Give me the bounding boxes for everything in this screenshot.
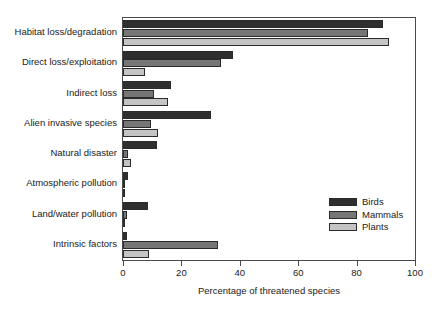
x-tick-0 <box>123 261 124 266</box>
bar-plants-5 <box>123 189 125 197</box>
legend-swatch-plants <box>329 223 357 231</box>
x-tick-label-2: 40 <box>235 267 246 278</box>
x-tick-label-0: 0 <box>120 267 125 278</box>
bar-birds-2 <box>123 81 171 89</box>
x-tick-3 <box>298 261 299 266</box>
bar-birds-3 <box>123 111 211 119</box>
bar-mammals-6 <box>123 211 127 219</box>
legend-item-birds: Birds <box>329 197 409 207</box>
bar-plants-1 <box>123 68 145 76</box>
category-label-7: Intrinsic factors <box>0 239 117 249</box>
category-label-3: Alien invasive species <box>0 118 117 128</box>
bar-mammals-0 <box>123 29 368 37</box>
bar-birds-7 <box>123 232 127 240</box>
category-label-1: Direct loss/exploitation <box>0 57 117 67</box>
legend-label-mammals: Mammals <box>362 210 403 220</box>
x-axis-title: Percentage of threatened species <box>122 285 416 296</box>
bar-birds-0 <box>123 20 383 28</box>
bar-birds-6 <box>123 202 148 210</box>
x-tick-4 <box>357 261 358 266</box>
category-label-2: Indirect loss <box>0 88 117 98</box>
bar-mammals-2 <box>123 90 154 98</box>
x-tick-label-3: 60 <box>293 267 304 278</box>
legend-label-plants: Plants <box>362 222 388 232</box>
bar-plants-3 <box>123 129 158 137</box>
bar-plants-0 <box>123 38 389 46</box>
x-tick-label-5: 100 <box>407 267 423 278</box>
chart-legend: BirdsMammalsPlants <box>329 197 409 237</box>
legend-item-plants: Plants <box>329 222 409 232</box>
bar-plants-4 <box>123 159 131 167</box>
x-axis-tick-labels: 020406080100 <box>0 267 434 281</box>
x-tick-2 <box>240 261 241 266</box>
legend-swatch-mammals <box>329 211 357 219</box>
bar-birds-1 <box>123 51 233 59</box>
bar-plants-6 <box>123 219 125 227</box>
bar-chart: Habitat loss/degradationDirect loss/expl… <box>0 0 434 313</box>
x-tick-label-4: 80 <box>351 267 362 278</box>
bar-mammals-4 <box>123 150 128 158</box>
category-axis-labels: Habitat loss/degradationDirect loss/expl… <box>0 17 117 261</box>
category-label-4: Natural disaster <box>0 148 117 158</box>
category-label-0: Habitat loss/degradation <box>0 27 117 37</box>
category-label-5: Atmospheric pollution <box>0 178 117 188</box>
bar-birds-5 <box>123 172 128 180</box>
x-tick-label-1: 20 <box>176 267 187 278</box>
bar-mammals-5 <box>123 180 125 188</box>
legend-item-mammals: Mammals <box>329 210 409 220</box>
bar-mammals-1 <box>123 59 221 67</box>
legend-swatch-birds <box>329 198 357 206</box>
bar-birds-4 <box>123 141 157 149</box>
bar-plants-7 <box>123 250 149 258</box>
legend-label-birds: Birds <box>362 197 384 207</box>
x-tick-5 <box>415 261 416 266</box>
bar-mammals-7 <box>123 241 218 249</box>
bar-mammals-3 <box>123 120 151 128</box>
bar-plants-2 <box>123 98 168 106</box>
x-tick-1 <box>181 261 182 266</box>
category-label-6: Land/water pollution <box>0 209 117 219</box>
